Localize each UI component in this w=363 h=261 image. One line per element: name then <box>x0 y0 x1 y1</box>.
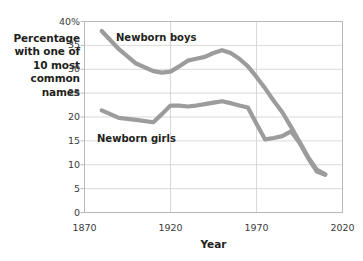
x-axis-tick-label: 1970 <box>227 216 287 235</box>
x-axis-tick-text: 1920 <box>158 222 182 233</box>
y-axis-tick-text: 30 <box>46 63 80 74</box>
y-axis-tick-text: 35 <box>46 39 80 50</box>
y-axis-tick-text: 25 <box>46 87 80 98</box>
series-label-newborn-boys: Newborn boys <box>116 32 196 43</box>
x-axis-tick-label: 1870 <box>55 216 115 235</box>
data-series-layer <box>102 31 326 175</box>
series-label-newborn-girls: Newborn girls <box>97 133 176 144</box>
x-axis-tick-text: 1870 <box>72 222 96 233</box>
x-axis-tick-label: 1920 <box>141 216 201 235</box>
x-axis-title: Year <box>84 238 343 250</box>
y-axis-tick-text: 15 <box>46 135 80 146</box>
y-axis-tick-text: 20 <box>46 111 80 122</box>
x-axis-tick-text: 1970 <box>244 222 268 233</box>
y-axis-tick-text: 10 <box>46 159 80 170</box>
y-axis-tick-text: 40% <box>46 16 80 27</box>
y-axis-tick-text: 5 <box>46 183 80 194</box>
x-axis-tick-text: 2020 <box>330 222 354 233</box>
x-axis-tick-label: 2020 <box>313 216 363 235</box>
line-chart: Percentage with one of 10 most common na… <box>0 0 363 261</box>
